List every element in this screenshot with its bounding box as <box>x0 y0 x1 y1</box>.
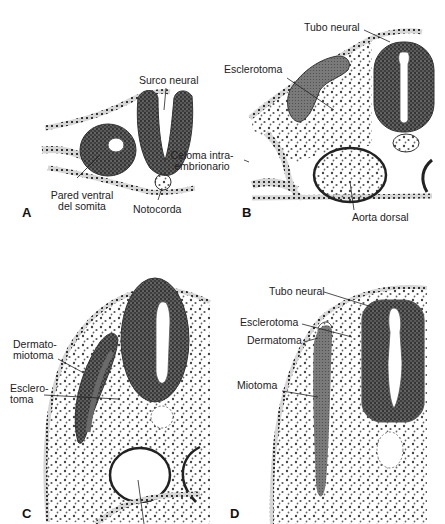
panel-a: Surco neural Pared ventral del somita No… <box>0 0 222 262</box>
label-dermatoma-d: Dermatoma <box>247 335 302 346</box>
label-dermatomiotoma: Dermato- miotoma <box>13 339 57 361</box>
label-notocorda: Notocorda <box>133 204 181 215</box>
panel-b-illustration <box>222 0 445 262</box>
label-tubo-neural-d: Tubo neural <box>269 286 325 297</box>
panel-letter-d: D <box>230 506 239 521</box>
panel-letter-c: C <box>22 506 31 521</box>
label-miotoma-d: Miotoma <box>237 380 277 391</box>
panel-d-illustration <box>222 262 445 524</box>
panel-a-illustration <box>0 0 222 262</box>
label-dermatomiotoma-line2: miotoma <box>13 350 57 361</box>
panel-letter-a: A <box>22 205 31 220</box>
label-surco-neural: Surco neural <box>139 75 199 86</box>
label-esclerotoma-b: Esclerotoma <box>224 64 282 75</box>
label-pared-ventral-somita: Pared ventral del somita <box>50 190 114 212</box>
label-celoma-intraembrionario: Celoma intra- embrionario <box>162 150 242 172</box>
label-celoma-line2: embrionario <box>162 161 242 172</box>
label-pared-ventral-line2: del somita <box>50 201 114 212</box>
panel-b: Tubo neural Esclerotoma Celoma intra- em… <box>222 0 445 262</box>
panel-d: Tubo neural Esclerotoma Dermatoma Miotom… <box>222 262 445 524</box>
label-esclerotoma-c: Esclero- toma <box>10 383 49 405</box>
label-tubo-neural-b: Tubo neural <box>304 22 360 33</box>
label-aorta-dorsal-b: Aorta dorsal <box>352 212 409 223</box>
panel-letter-b: B <box>242 205 251 220</box>
panel-c: Dermato- miotoma Esclero- toma C <box>0 262 222 524</box>
label-esclerotoma-d: Esclerotoma <box>240 317 298 328</box>
label-esclerotoma-c-line2: toma <box>10 394 49 405</box>
